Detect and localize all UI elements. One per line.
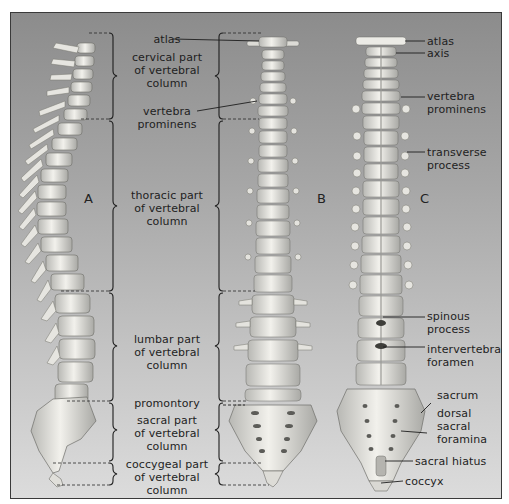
sacral-line-3: column xyxy=(115,440,219,453)
label-spinous-process: spinous process xyxy=(427,310,470,336)
thoracic-line-3: column xyxy=(115,215,219,228)
vertebra-prominens-line-1: vertebra xyxy=(115,105,219,118)
label-sacral-region: sacral part of vertebral column xyxy=(115,414,219,453)
label-coccygeal-region: coccygeal part of vertebral column xyxy=(115,458,219,497)
cervical-line-3: column xyxy=(115,77,219,90)
cervical-line-2: of vertebral xyxy=(115,64,219,77)
spine-anterior-view xyxy=(229,37,317,487)
lumbar-line-2: of vertebral xyxy=(115,346,219,359)
cervical-line-1: cervical part xyxy=(115,51,219,64)
spine-illustration xyxy=(11,13,501,498)
coccygeal-line-3: column xyxy=(115,484,219,497)
vertebra-prominens-right-line-1: vertebra xyxy=(427,90,486,103)
vertebra-prominens-line-2: prominens xyxy=(115,118,219,131)
spinous-process-line-1: spinous xyxy=(427,310,470,323)
spinous-process-line-2: process xyxy=(427,323,470,336)
label-vertebra-prominens-center: vertebra prominens xyxy=(115,105,219,131)
intervertebral-foramen-line-1: intervertebral xyxy=(427,343,502,356)
label-transverse-process: transverse process xyxy=(427,146,487,172)
label-promontory: promontory xyxy=(115,397,219,410)
dorsal-sacral-foramina-line-1: dorsal xyxy=(437,407,487,420)
thoracic-line-2: of vertebral xyxy=(115,202,219,215)
lumbar-line-3: column xyxy=(115,359,219,372)
coccygeal-line-2: of vertebral xyxy=(115,471,219,484)
view-label-a: A xyxy=(84,191,93,206)
transverse-process-line-2: process xyxy=(427,159,487,172)
dorsal-sacral-foramina-line-3: foramina xyxy=(437,433,487,446)
label-atlas-center: atlas xyxy=(115,33,219,46)
label-sacrum: sacrum xyxy=(437,389,478,402)
label-coccyx: coccyx xyxy=(405,475,444,488)
label-cervical-region: cervical part of vertebral column xyxy=(115,51,219,90)
spine-posterior-view xyxy=(337,37,425,491)
label-dorsal-sacral-foramina: dorsal sacral foramina xyxy=(437,407,487,446)
vertebra-prominens-right-line-2: prominens xyxy=(427,103,486,116)
diagram-frame: A B C atlas cervical part of vertebral c… xyxy=(10,12,502,499)
thoracic-line-1: thoracic part xyxy=(115,189,219,202)
transverse-process-line-1: transverse xyxy=(427,146,487,159)
view-label-b: B xyxy=(317,191,326,206)
coccygeal-line-1: coccygeal part xyxy=(115,458,219,471)
label-thoracic-region: thoracic part of vertebral column xyxy=(115,189,219,228)
label-vertebra-prominens-right: vertebra prominens xyxy=(427,90,486,116)
label-lumbar-region: lumbar part of vertebral column xyxy=(115,333,219,372)
dorsal-sacral-foramina-line-2: sacral xyxy=(437,420,487,433)
intervertebral-foramen-line-2: foramen xyxy=(427,356,502,369)
lumbar-line-1: lumbar part xyxy=(115,333,219,346)
sacral-line-2: of vertebral xyxy=(115,427,219,440)
view-label-c: C xyxy=(420,191,429,206)
spine-lateral-view xyxy=(18,43,96,487)
label-sacral-hiatus: sacral hiatus xyxy=(415,455,486,468)
sacral-line-1: sacral part xyxy=(115,414,219,427)
label-axis: axis xyxy=(427,47,449,60)
label-intervertebral-foramen: intervertebral foramen xyxy=(427,343,502,369)
